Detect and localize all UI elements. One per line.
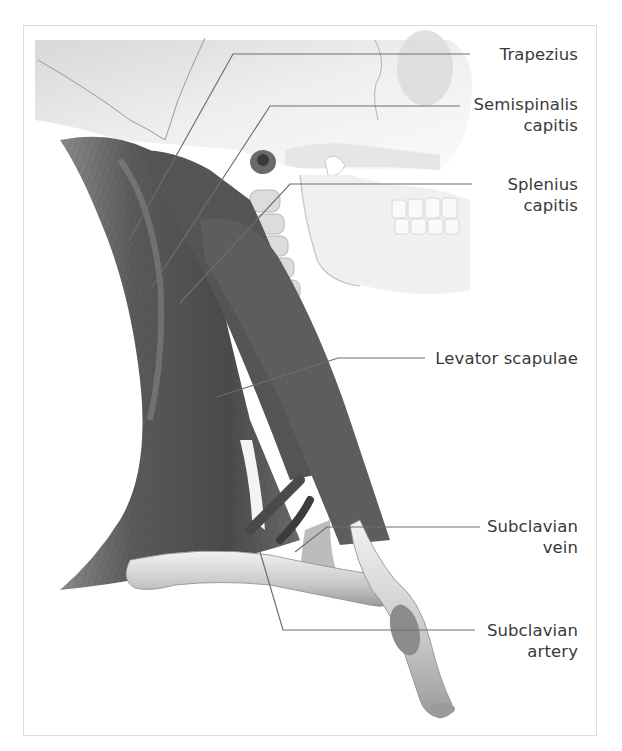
label-semispinalis-capitis: Semispinalis capitis [474, 94, 578, 136]
label-subclavian-artery: Subclavian artery [487, 620, 578, 662]
label-levator-scapulae: Levator scapulae [435, 348, 578, 369]
label-splenius-capitis: Splenius capitis [507, 174, 578, 216]
label-trapezius: Trapezius [500, 44, 578, 65]
mandible [300, 175, 470, 294]
label-subclavian-vein: Subclavian vein [487, 516, 578, 558]
